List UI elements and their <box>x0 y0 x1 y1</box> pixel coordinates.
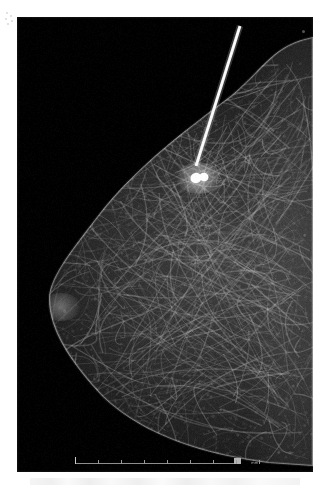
film-registration-mark-icon <box>5 18 7 20</box>
scale-bar-tick <box>236 460 237 464</box>
mammogram-viewer: Mammogram mm <box>0 0 331 489</box>
scale-bar: mm <box>75 452 240 464</box>
corner-fiducial-icon <box>302 30 305 33</box>
mammogram-image <box>17 17 313 472</box>
film-registration-mark-icon <box>10 15 12 17</box>
scale-bar-tick <box>98 460 99 464</box>
film-registration-mark-icon <box>11 20 13 22</box>
radiograph-film: mm <box>17 17 313 472</box>
film-registration-mark-icon <box>7 23 9 25</box>
scale-bar-tick <box>121 460 122 464</box>
scale-bar-unit-label: mm <box>251 460 258 465</box>
scale-bar-tick <box>75 457 76 464</box>
scale-bar-axis <box>75 463 240 464</box>
scale-bar-tick <box>259 460 260 464</box>
print-artifact-strip <box>30 478 300 485</box>
scale-bar-tick <box>144 460 145 464</box>
scale-bar-tick <box>213 460 214 464</box>
scale-bar-tick <box>190 460 191 464</box>
film-registration-mark-icon <box>6 12 8 14</box>
scale-bar-tick <box>167 460 168 464</box>
